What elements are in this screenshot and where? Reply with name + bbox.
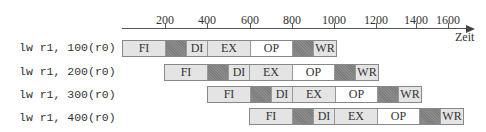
stage-fi: FI: [250, 109, 293, 124]
stage-stall: [251, 87, 272, 102]
stage-op: OP: [378, 109, 420, 124]
stage-stall: [293, 41, 314, 56]
stage-ex: EX: [335, 109, 378, 124]
pipeline-row: FI DI EX OP WR: [122, 40, 337, 57]
tick-mark: [376, 23, 377, 28]
stage-di: DI: [314, 109, 335, 124]
axis-line: [122, 28, 468, 29]
instruction-label: lw r1, 100(r0): [19, 41, 116, 54]
tick-mark: [334, 23, 335, 28]
stage-op: OP: [251, 41, 293, 56]
pipeline-row: FI DI EX OP WR: [164, 64, 379, 81]
stage-op: OP: [293, 65, 335, 80]
tick-mark: [165, 23, 166, 28]
stage-stall: [335, 65, 356, 80]
stage-wr: WR: [356, 65, 378, 80]
stage-stall: [293, 109, 314, 124]
stage-wr: WR: [314, 41, 336, 56]
tick-mark: [207, 23, 208, 28]
stage-ex: EX: [250, 65, 293, 80]
stage-stall: [166, 41, 187, 56]
stage-ex: EX: [293, 87, 336, 102]
stage-di: DI: [272, 87, 293, 102]
pipeline-row: FI DI EX OP WR: [249, 108, 464, 125]
stage-fi: FI: [123, 41, 166, 56]
stage-di: DI: [187, 41, 208, 56]
tick-mark: [250, 23, 251, 28]
stage-op: OP: [336, 87, 378, 102]
stage-fi: FI: [165, 65, 208, 80]
stage-ex: EX: [208, 41, 251, 56]
stage-stall: [378, 87, 399, 102]
instruction-label: lw r1, 200(r0): [19, 65, 116, 78]
instruction-label: lw r1, 400(r0): [19, 111, 116, 124]
pipeline-row: FI DI EX OP WR: [207, 86, 422, 103]
stage-di: DI: [229, 65, 250, 80]
stage-stall: [208, 65, 229, 80]
stage-stall: [420, 109, 441, 124]
tick-mark: [292, 23, 293, 28]
tick-mark: [416, 23, 417, 28]
instruction-label: lw r1, 300(r0): [19, 88, 116, 101]
stage-fi: FI: [208, 87, 251, 102]
stage-wr: WR: [441, 109, 463, 124]
stage-wr: WR: [399, 87, 421, 102]
tick-mark: [448, 23, 449, 28]
axis-title: Zeit: [455, 30, 474, 45]
